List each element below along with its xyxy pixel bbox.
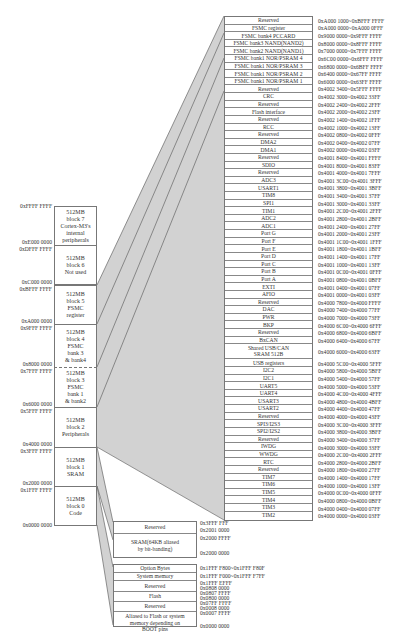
peripheral-row: ADC2 xyxy=(225,215,312,223)
peripheral-row: I2C2 xyxy=(225,367,312,375)
peripheral-name: DMA2 xyxy=(261,139,277,145)
peripheral-address-range: 0x4002 0800~0x4002 0FFF xyxy=(318,132,381,138)
peripheral-address-range: 0x4000 4800~0x4000 4BFF xyxy=(318,399,381,405)
sram-address: 0x2000 FFFF xyxy=(200,535,231,541)
aliased-boot-row: Aliased to Flash or system memory depend… xyxy=(114,612,196,634)
peripheral-name: WWDG xyxy=(259,451,278,457)
peripheral-address-range: 0x4002 0000~0x4002 03FF xyxy=(318,147,380,153)
block-3: 512MB block 3 FSMC bank 1 & bank2 xyxy=(54,367,97,408)
peripheral-name: Port D xyxy=(261,253,276,259)
peripheral-name: Port C xyxy=(261,261,275,267)
peripheral-address-range: 0x4000 6800~0x4000 6BFF xyxy=(318,330,381,336)
peripheral-name: ADC2 xyxy=(261,215,276,221)
block-label: block 3 xyxy=(67,377,85,384)
peripheral-address-range: 0x4000 1800~0x4000 27FF xyxy=(318,467,380,473)
peripheral-row: TIM7 xyxy=(225,474,312,482)
block-label: block 7 xyxy=(67,216,85,223)
peripheral-row: TIM8 xyxy=(225,192,312,200)
peripheral-name: FSMC bank1 NOR/PSRAM 2 xyxy=(235,71,303,77)
block5-top-address: 0xBFFF FFFF xyxy=(0,286,52,292)
reserved-row: Reserved xyxy=(114,581,196,592)
peripheral-address-range: 0x4000 3C00~0x4000 3FFF xyxy=(318,422,382,428)
peripheral-address-range: 0x4000 7000~0x4000 73FF xyxy=(318,315,380,321)
peripheral-address-range: 0x4000 6400~0x4000 67FF xyxy=(318,338,380,344)
block-desc: bank 3 xyxy=(67,350,83,357)
peripheral-address-range: 0x4001 8400~0x4001 FFFF xyxy=(318,155,381,161)
peripheral-row: I2C1 xyxy=(225,375,312,383)
reserved-row: Reserved xyxy=(114,602,196,612)
peripheral-row: FSMC bank1 NOR/PSRAM 2 xyxy=(225,70,312,78)
peripheral-row: CRC xyxy=(225,93,312,101)
peripheral-address-range: 0x4002 2000~0x4002 23FF xyxy=(318,109,380,115)
peripheral-name: ADC1 xyxy=(261,223,276,229)
peripheral-address-range: 0x4000 5400~0x4000 57FF xyxy=(318,376,380,382)
block0-bottom-address: 0x0000 0000 xyxy=(0,522,52,528)
block5-bottom-address: 0xA000 0000 xyxy=(0,318,52,324)
peripheral-name: FSMC register xyxy=(252,25,285,31)
peripheral-name: I2C2 xyxy=(263,367,274,373)
peripheral-address-range: 0x4000 4000~0x4000 43FF xyxy=(318,414,380,420)
block-desc: & bank4 xyxy=(65,357,86,364)
peripheral-address-range: 0x4000 2800~0x4000 2BFF xyxy=(318,460,381,466)
peripheral-row: Reserved xyxy=(225,413,312,421)
peripheral-address-range: 0x4001 0000~0x4001 03FF xyxy=(318,292,380,298)
peripheral-name: ADC3 xyxy=(261,177,276,183)
peripheral-name: TIM7 xyxy=(262,474,275,480)
block-size: 512MB xyxy=(66,496,84,503)
block4-bottom-address: 0x8000 0000 xyxy=(0,361,52,367)
peripheral-row: WWDG xyxy=(225,451,312,459)
peripheral-address-range: 0x4000 0800~0x4000 0BFF xyxy=(318,498,381,504)
peripheral-name: Reserved xyxy=(258,329,279,335)
peripheral-row: Port B xyxy=(225,268,312,276)
peripheral-name: DMA1 xyxy=(261,147,277,153)
block-5: 512MB block 5 FSMC register xyxy=(54,285,97,325)
block6-bottom-address: 0xC000 0000 xyxy=(0,279,52,285)
peripheral-address-range: 0x6800 0000~0x6BFF FFFF xyxy=(318,64,383,70)
peripheral-row: Reserved xyxy=(225,436,312,444)
peripheral-name: DAC xyxy=(263,306,275,312)
peripheral-address-range: 0x4001 2C00~0x4001 2FFF xyxy=(318,208,382,214)
block-desc: FSMC xyxy=(67,384,83,391)
peripheral-row: FSMC bank1 NOR/PSRAM 1 xyxy=(225,78,312,86)
block3-bottom-address: 0x6000 0000 xyxy=(0,401,52,407)
peripheral-row: TIM1 xyxy=(225,207,312,215)
peripheral-address-range: 0x6C00 0000~0x6FFF FFFF xyxy=(318,56,383,62)
peripheral-row: ADC1 xyxy=(225,222,312,230)
peripheral-row: UART4 xyxy=(225,390,312,398)
peripheral-name: BKP xyxy=(263,322,274,328)
peripheral-name: Reserved xyxy=(258,466,279,472)
peripheral-name: Flash interface xyxy=(252,109,285,115)
peripheral-row: SPI1 xyxy=(225,200,312,208)
peripheral-address-range: 0x4000 4400~0x4000 47FF xyxy=(318,406,380,412)
peripheral-name: Reserved xyxy=(258,101,279,107)
peripheral-address-range: 0x4000 6C00~0x4000 6FFF xyxy=(318,323,382,329)
peripheral-name: BxCAN xyxy=(259,337,277,343)
block2-bottom-address: 0x4000 0000 xyxy=(0,441,52,447)
peripheral-address-range: 0x4001 1C00~0x4001 1FFF xyxy=(318,239,382,245)
row-label: Option Bytes xyxy=(140,565,170,572)
peripheral-row: BxCAN xyxy=(225,337,312,345)
sram-address: 0x2000 0000 xyxy=(200,550,229,556)
peripheral-row: Shared USB/CANSRAM 512B xyxy=(225,344,312,359)
peripheral-name: RTC xyxy=(263,459,274,465)
peripheral-address-range: 0x7000 0000~0x7FFF FFFF xyxy=(318,48,382,54)
code-detail-table: Option Bytes System memory Reserved Flas… xyxy=(113,564,197,627)
peripheral-name: Reserved xyxy=(258,169,279,175)
peripheral-address-range: 0x4000 5C00~0x4000 5FFF xyxy=(318,361,382,367)
peripheral-address-range: 0x4000 2C00~0x4000 2FFF xyxy=(318,452,382,458)
peripheral-row: Reserved xyxy=(225,131,312,139)
sram-row: SRAM(64KB aliased by bit-banding) xyxy=(114,534,196,557)
block-size: 512MB xyxy=(66,417,84,424)
peripheral-row: FSMC bank3 NAND(NAND2) xyxy=(225,40,312,48)
peripheral-address-range: 0x4001 1000~0x4001 13FF xyxy=(318,262,380,268)
block-desc: bank 1 xyxy=(67,391,83,398)
block-size: 512MB xyxy=(66,457,84,464)
peripheral-address-range: 0x4001 8000~0x4001 83FF xyxy=(318,163,380,169)
peripheral-row: Port G xyxy=(225,230,312,238)
row-label: Reserved xyxy=(145,603,166,610)
option-bytes-row: Option Bytes xyxy=(114,565,196,573)
peripheral-name: USB registers xyxy=(253,360,284,366)
peripheral-address-range: 0x4002 0400~0x4002 07FF xyxy=(318,140,380,146)
peripheral-name: FSMC bank1 NOR/PSRAM 3 xyxy=(235,63,303,69)
block-1: 512MB block 1 SRAM xyxy=(54,447,97,487)
